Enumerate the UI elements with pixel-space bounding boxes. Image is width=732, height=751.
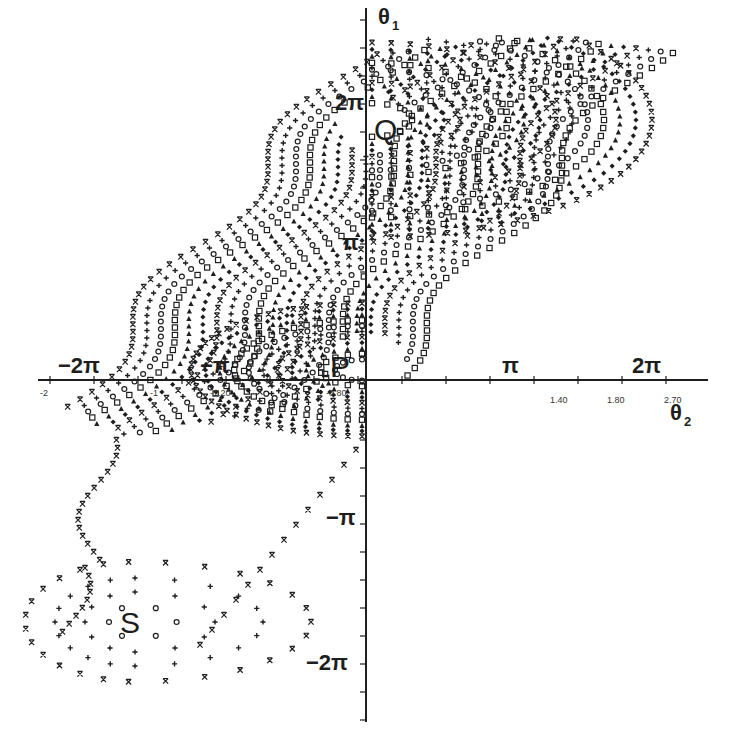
y-tick-neg-2pi: −2π (306, 652, 348, 674)
y-tick-2pi: 2π (335, 92, 364, 114)
x-tick-neg-pi: −π (200, 355, 230, 377)
x-num-tick: -2 (40, 388, 48, 398)
point-label-s: S (120, 608, 140, 638)
x-num-tick: -1 (150, 388, 158, 398)
x-tick-neg-2pi: −2π (58, 355, 100, 377)
y-tick-neg-pi: −π (326, 507, 356, 529)
y-tick-pi: π (342, 232, 359, 254)
phase-plot (0, 0, 732, 751)
x-num-tick: 1.80 (607, 395, 625, 405)
x-num-tick: -1.20 (210, 388, 231, 398)
x-num-tick: -0.80 (326, 388, 347, 398)
point-label-p: P (330, 352, 350, 382)
x-tick-2pi: 2π (632, 355, 661, 377)
x-axis-label: θ2 (670, 402, 691, 428)
axis-ticks (50, 20, 666, 720)
point-label-q: Q (374, 115, 397, 145)
x-tick-pi: π (502, 355, 519, 377)
x-num-tick: 2.70 (664, 395, 682, 405)
x-num-tick: 1.40 (550, 395, 568, 405)
y-axis-label: θ1 (378, 6, 399, 32)
